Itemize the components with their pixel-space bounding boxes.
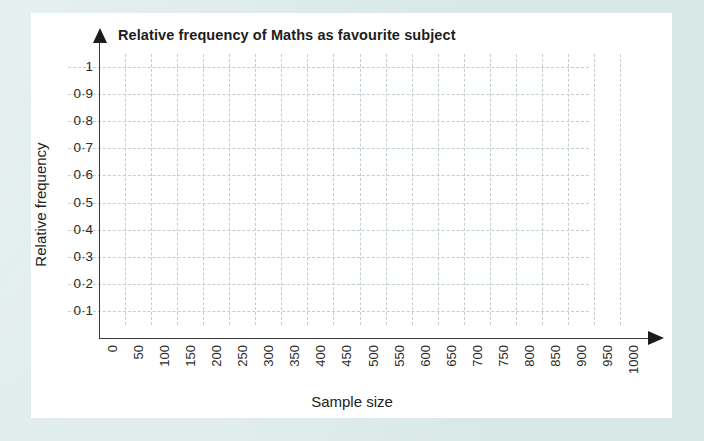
x-tick-label: 250 xyxy=(229,345,242,367)
x-tick-label: 600 xyxy=(412,345,425,367)
y-axis-title: Relative frequency xyxy=(32,105,49,305)
x-tick-label: 850 xyxy=(542,345,555,367)
x-tick-label: 950 xyxy=(594,345,607,367)
x-tick-label: 400 xyxy=(307,345,320,367)
x-axis-title: Sample size xyxy=(0,393,704,410)
x-tick-label: 700 xyxy=(464,345,477,367)
x-tick-label: 750 xyxy=(490,345,503,367)
x-tick-label: 900 xyxy=(568,345,581,367)
x-tick-label: 300 xyxy=(255,345,268,367)
x-tick-label: 0 xyxy=(99,345,112,352)
x-tick-label: 800 xyxy=(516,345,529,367)
x-tick-label: 100 xyxy=(151,345,164,367)
x-tick-label: 650 xyxy=(438,345,451,367)
x-tick-label: 450 xyxy=(333,345,346,367)
chart-title: Relative frequency of Maths as favourite… xyxy=(118,27,456,43)
x-tick-label: 150 xyxy=(177,345,190,367)
x-axis-tick-labels: 0501001502002503003504004505005506006507… xyxy=(0,0,704,441)
x-tick-label: 550 xyxy=(386,345,399,367)
x-tick-label: 350 xyxy=(281,345,294,367)
x-tick-label: 200 xyxy=(203,345,216,367)
x-tick-label: 50 xyxy=(125,345,138,359)
x-tick-label: 500 xyxy=(360,345,373,367)
x-tick-label: 1000 xyxy=(620,345,633,374)
